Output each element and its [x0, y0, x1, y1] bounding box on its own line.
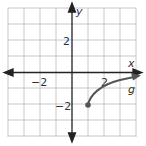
x-tick-label-neg2: −2: [31, 76, 47, 89]
y-tick-label-pos2: 2: [63, 35, 70, 48]
x-axis-label: x: [127, 57, 135, 70]
curve-start-point: [85, 102, 91, 108]
curve-label-g: g: [128, 83, 135, 96]
y-axis-down-arrow-icon: [69, 133, 76, 142]
coordinate-plane: y x −2 2 2 −2 g: [0, 0, 146, 146]
y-tick-label-neg2: −2: [55, 100, 71, 113]
x-axis: [4, 69, 142, 76]
y-axis-label: y: [75, 5, 83, 18]
